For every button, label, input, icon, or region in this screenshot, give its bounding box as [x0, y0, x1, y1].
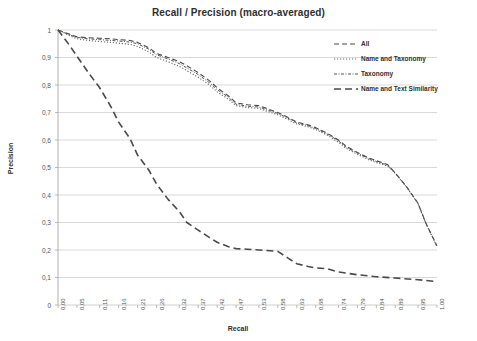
x-tick-label: 0,58	[280, 298, 287, 310]
y-tick-label: 0,3	[25, 219, 51, 226]
y-tick-label: 0,6	[25, 137, 51, 144]
y-tick-label: 0,8	[25, 82, 51, 89]
y-tick-label: 0	[25, 302, 51, 309]
y-tick-label: 0,5	[25, 164, 51, 171]
x-tick-label: 0,68	[318, 298, 325, 310]
legend-label: Name and Taxonomy	[359, 55, 426, 62]
legend-item-0: All	[333, 36, 475, 51]
y-tick-label: 0,2	[25, 247, 51, 254]
x-tick-label: 0,16	[121, 298, 128, 310]
x-tick-label: 0,26	[159, 298, 166, 310]
x-tick-label: 0,95	[420, 298, 427, 310]
x-tick-label: 0,47	[238, 298, 245, 310]
x-tick-label: 0,21	[140, 298, 147, 310]
x-tick-label: 0,00	[60, 298, 67, 310]
x-tick-label: 0,63	[299, 298, 306, 310]
legend-line-swatch-icon	[333, 69, 359, 79]
x-tick-label: 0,79	[360, 298, 367, 310]
x-tick-label: 0,32	[181, 298, 188, 310]
legend-label: Name and Text Similarity	[359, 85, 438, 92]
legend-label: Taxonomy	[359, 70, 393, 77]
x-tick-label: 0,84	[379, 298, 386, 310]
x-tick-label: 0,05	[79, 298, 86, 310]
x-tick-label: 0,89	[398, 298, 405, 310]
x-tick-label: 0,53	[261, 298, 268, 310]
chart-legend: AllName and TaxonomyTaxonomyName and Tex…	[333, 36, 475, 96]
y-tick-label: 0,7	[25, 109, 51, 116]
y-tick-label: 1	[25, 27, 51, 34]
x-tick-label: 1,00	[439, 298, 446, 310]
chart-container: Recall / Precision (macro-averaged) Prec…	[0, 0, 477, 341]
x-tick-label: 0,11	[102, 299, 109, 310]
legend-item-1: Name and Taxonomy	[333, 51, 475, 66]
x-tick-label: 0,37	[200, 298, 207, 310]
legend-item-3: Name and Text Similarity	[333, 81, 475, 96]
x-tick-label: 0,74	[341, 298, 348, 310]
y-tick-label: 0,9	[25, 54, 51, 61]
x-tick-label: 0,42	[219, 298, 226, 310]
legend-item-2: Taxonomy	[333, 66, 475, 81]
legend-line-swatch-icon	[333, 39, 359, 49]
legend-line-swatch-icon	[333, 54, 359, 64]
y-tick-label: 0,4	[25, 192, 51, 199]
legend-label: All	[359, 40, 369, 47]
legend-line-swatch-icon	[333, 84, 359, 94]
y-tick-label: 0,1	[25, 274, 51, 281]
